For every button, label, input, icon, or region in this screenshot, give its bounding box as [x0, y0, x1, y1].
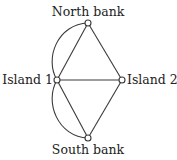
edge-north-island2 [88, 23, 122, 80]
edges [52, 23, 122, 138]
node-island-1 [54, 77, 60, 83]
konigsberg-graph: North bank Island 1 Island 2 South bank [0, 0, 177, 160]
edge-island1-north-straight [57, 23, 88, 80]
label-island-1: Island 1 [2, 72, 53, 87]
label-south-bank: South bank [52, 142, 125, 157]
node-south-bank [85, 135, 91, 141]
edge-island1-south-curved [52, 80, 88, 138]
edge-island1-north-curved [52, 23, 88, 80]
edge-island1-south-straight [57, 80, 88, 138]
label-island-2: Island 2 [127, 72, 177, 87]
label-north-bank: North bank [52, 4, 125, 19]
node-island-2 [119, 77, 125, 83]
edge-south-island2 [88, 80, 122, 138]
node-north-bank [85, 20, 91, 26]
